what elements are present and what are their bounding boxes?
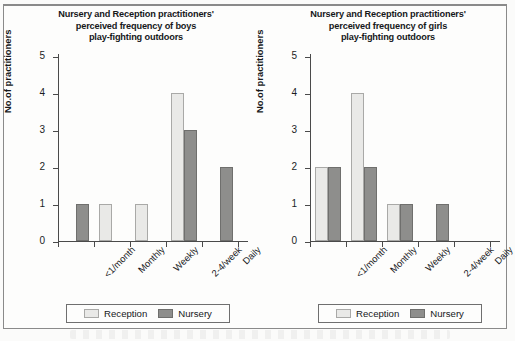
y-axis-tick: 2 <box>53 168 58 169</box>
x-axis-label: Weekly <box>423 244 452 273</box>
legend-swatch-nursery-icon <box>158 309 173 318</box>
chart-title-line: Nursery and Reception practitioners' <box>274 9 502 21</box>
x-axis-label: 2-4/week <box>209 244 244 279</box>
chart-title-line: play-fighting outdoors <box>274 32 502 44</box>
x-axis-label: Monthly <box>136 244 167 275</box>
y-axis-tick: 1 <box>305 205 310 206</box>
y-axis-tick: 4 <box>53 94 58 95</box>
x-axis-labels-girls: <1/monthMonthlyWeekly2-4/weekDaily <box>310 244 500 304</box>
x-axis-label: 2-4/week <box>461 244 496 279</box>
bar-reception[interactable] <box>135 204 148 241</box>
y-axis-tick-label: 1 <box>291 198 297 209</box>
y-axis-tick: 1 <box>53 205 58 206</box>
y-axis-label: No.of practitioners <box>2 30 13 113</box>
legend-swatch-nursery-icon <box>410 309 425 318</box>
bar-reception[interactable] <box>99 204 112 241</box>
y-axis-tick-label: 2 <box>291 161 297 172</box>
x-axis-label: Monthly <box>388 244 419 275</box>
y-axis-tick-label: 0 <box>291 235 297 246</box>
chart-panel-boys: Nursery and Reception practitioners' per… <box>4 5 256 332</box>
bar-nursery[interactable] <box>436 204 449 241</box>
x-axis-line <box>58 241 248 242</box>
y-axis-tick-label: 4 <box>39 87 45 98</box>
x-axis-label: <1/month <box>354 244 390 280</box>
chart-panel-girls: Nursery and Reception practitioners' per… <box>256 5 508 332</box>
legend-item-nursery: Nursery <box>158 308 212 319</box>
chart-title-boys: Nursery and Reception practitioners' per… <box>22 9 250 44</box>
bar-nursery[interactable] <box>220 167 233 241</box>
y-axis-tick-label: 1 <box>39 198 45 209</box>
legend-label-reception: Reception <box>356 308 399 319</box>
y-axis-tick: 4 <box>305 94 310 95</box>
legend-swatch-reception-icon <box>84 309 99 318</box>
bar-reception[interactable] <box>351 93 364 241</box>
y-axis-tick: 2 <box>305 168 310 169</box>
x-axis-line <box>310 241 500 242</box>
scan-bleed-artifact <box>70 330 450 339</box>
chart-title-line: perceived frequency of girls <box>274 21 502 33</box>
legend-item-reception: Reception <box>336 308 399 319</box>
chart-pair-container: Nursery and Reception practitioners' per… <box>4 5 508 332</box>
bar-reception[interactable] <box>315 167 328 241</box>
bar-nursery[interactable] <box>76 204 89 241</box>
y-axis-tick: 5 <box>53 57 58 58</box>
chart-title-line: perceived frequency of boys <box>22 21 250 33</box>
y-axis-tick: 3 <box>53 131 58 132</box>
y-axis-tick-label: 4 <box>291 87 297 98</box>
legend-label-reception: Reception <box>104 308 147 319</box>
legend-label-nursery: Nursery <box>178 308 212 319</box>
plot-area-girls: 012345 <box>310 57 490 242</box>
y-axis-label: No.of practitioners <box>254 30 265 113</box>
bar-nursery[interactable] <box>400 204 413 241</box>
legend-swatch-reception-icon <box>336 309 351 318</box>
y-axis-tick-label: 0 <box>39 235 45 246</box>
bar-reception[interactable] <box>387 204 400 241</box>
x-axis-labels-boys: <1/monthMonthlyWeekly2-4/weekDaily <box>58 244 248 304</box>
chart-title-line: Nursery and Reception practitioners' <box>22 9 250 21</box>
y-axis-tick: 5 <box>305 57 310 58</box>
bar-nursery[interactable] <box>364 167 377 241</box>
bar-reception[interactable] <box>171 93 184 241</box>
legend-boys: Reception Nursery <box>66 304 230 323</box>
bar-nursery[interactable] <box>184 130 197 241</box>
x-axis-label: Weekly <box>171 244 200 273</box>
y-axis-line <box>58 54 59 242</box>
y-axis-tick-label: 5 <box>291 50 297 61</box>
legend-girls: Reception Nursery <box>318 304 482 323</box>
chart-title-girls: Nursery and Reception practitioners' per… <box>274 9 502 44</box>
x-axis-label: Daily <box>492 244 515 267</box>
y-axis-tick-label: 2 <box>39 161 45 172</box>
y-axis-tick-label: 3 <box>291 124 297 135</box>
y-axis-tick-label: 5 <box>39 50 45 61</box>
y-axis-tick-label: 3 <box>39 124 45 135</box>
y-axis-line <box>310 54 311 242</box>
plot-area-boys: 012345 <box>58 57 238 242</box>
legend-label-nursery: Nursery <box>430 308 464 319</box>
x-axis-label: <1/month <box>102 244 138 280</box>
legend-item-nursery: Nursery <box>410 308 464 319</box>
chart-title-line: play-fighting outdoors <box>22 32 250 44</box>
bar-nursery[interactable] <box>328 167 341 241</box>
legend-item-reception: Reception <box>84 308 147 319</box>
y-axis-tick: 3 <box>305 131 310 132</box>
